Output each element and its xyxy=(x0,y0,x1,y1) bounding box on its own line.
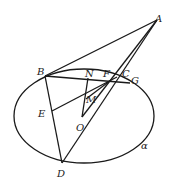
label-M: M xyxy=(85,94,97,105)
segment-AB xyxy=(45,20,157,76)
segment-BD xyxy=(45,76,62,163)
label-N: N xyxy=(84,68,95,79)
label-G: G xyxy=(131,75,139,86)
label-B: B xyxy=(36,66,44,77)
label-F: F xyxy=(102,68,111,79)
label-E: E xyxy=(37,108,46,119)
geometry-diagram: A B N F C G M E O D α xyxy=(0,0,172,188)
label-O: O xyxy=(76,122,84,133)
label-D: D xyxy=(56,168,65,179)
label-alpha: α xyxy=(141,140,148,151)
label-A: A xyxy=(154,13,162,24)
label-C: C xyxy=(122,68,130,79)
